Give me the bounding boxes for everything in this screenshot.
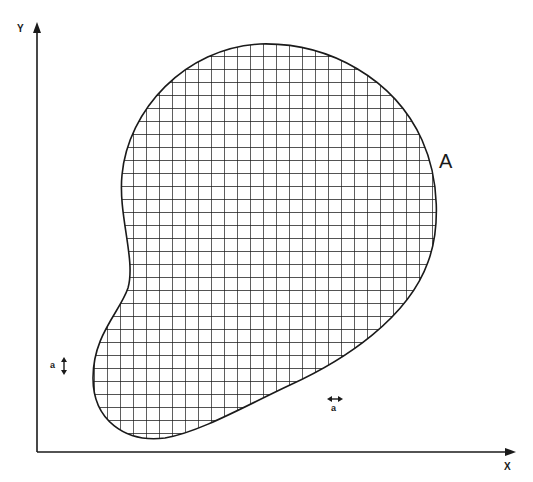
x-axis-arrow-icon — [505, 448, 516, 456]
region-a — [80, 30, 450, 450]
y-axis — [33, 22, 41, 452]
y-axis-arrow-icon — [33, 22, 41, 33]
x-axis-label: X — [504, 461, 511, 472]
area-diagram — [0, 0, 533, 482]
horizontal-unit-arrow-icon — [327, 396, 343, 402]
vertical-unit-label: a — [50, 360, 55, 370]
vertical-unit-arrow-icon — [61, 357, 67, 375]
horizontal-unit-label: a — [331, 403, 336, 413]
region-label: A — [439, 150, 452, 173]
y-axis-label: Y — [17, 23, 24, 34]
x-axis — [37, 448, 516, 456]
